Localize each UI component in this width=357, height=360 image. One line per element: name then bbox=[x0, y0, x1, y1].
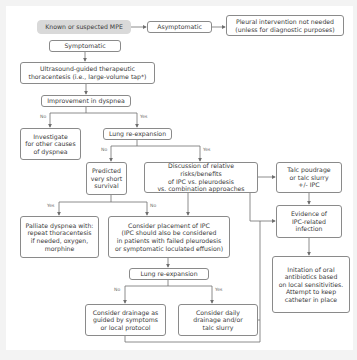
node-label: Discussion of relative risks/benefits of… bbox=[147, 162, 255, 192]
node-label: Ultrasound-guided therapeutic thoracente… bbox=[28, 65, 146, 80]
node-lung-reexpansion-2: Lung re-expansion bbox=[129, 268, 209, 280]
node-label: Asymptomatic bbox=[157, 23, 202, 31]
edge-label-reexp2-yes: Yes bbox=[215, 287, 222, 292]
node-evidence-ipc-infection: Evidence of IPC-related infection bbox=[276, 205, 342, 238]
node-talc-poudrage: Talc poudrage or talc slurry +/- IPC bbox=[276, 162, 342, 193]
edge-label-survival-yes: Yes bbox=[47, 203, 54, 208]
node-label: Known or suspected MPE bbox=[45, 23, 123, 31]
node-ultrasound-thoracentesis: Ultrasound-guided therapeutic thoracente… bbox=[20, 62, 155, 84]
node-symptomatic: Symptomatic bbox=[49, 40, 121, 52]
node-label: Consider drainage as guided by symptoms … bbox=[93, 309, 159, 332]
node-oral-antibiotics: Initation of oral antibiotics based on l… bbox=[272, 256, 350, 313]
node-predicted-short-survival: Predicted very short survival bbox=[86, 162, 127, 195]
node-daily-drainage: Consider daily drainage and/or talc slur… bbox=[178, 304, 258, 336]
node-label: Predicted very short survival bbox=[91, 167, 123, 190]
node-investigate-other-causes: Investigate for other causes of dyspnea bbox=[20, 128, 81, 160]
node-label: Lung re-expansion bbox=[140, 270, 197, 278]
node-label: Consider daily drainage and/or talc slur… bbox=[193, 309, 242, 332]
node-discussion-risks-benefits: Discussion of relative risks/benefits of… bbox=[144, 162, 258, 193]
node-label: Lung re-expansion bbox=[109, 130, 166, 138]
node-label: Symptomatic bbox=[64, 42, 105, 50]
node-improvement-in-dyspnea: Improvement in dyspnea bbox=[41, 95, 131, 107]
edge-label-reexp2-no: No bbox=[114, 287, 120, 292]
node-label: Pleural intervention not needed (unless … bbox=[235, 18, 334, 33]
node-palliate-dyspnea: Palliate dyspnea with: repeat thoracente… bbox=[20, 216, 99, 258]
node-label: Evidence of IPC-related infection bbox=[291, 210, 327, 233]
edge-label-reexp1-yes: Yes bbox=[203, 147, 210, 152]
node-label: Improvement in dyspnea bbox=[47, 97, 124, 105]
node-known-suspected-mpe: Known or suspected MPE bbox=[37, 20, 131, 34]
node-pleural-intervention-not-needed: Pleural intervention not needed (unless … bbox=[226, 15, 344, 36]
node-label: Palliate dyspnea with: repeat thoracente… bbox=[26, 222, 94, 252]
node-label: Talc poudrage or talc slurry +/- IPC bbox=[287, 166, 330, 189]
edge-label-survival-no: No bbox=[150, 203, 156, 208]
node-label: Investigate for other causes of dyspnea bbox=[25, 133, 75, 156]
edge-label-reexp1-no: No bbox=[101, 147, 107, 152]
edge-label-improvement-no: No bbox=[40, 114, 46, 119]
node-label: Initation of oral antibiotics based on l… bbox=[279, 266, 344, 304]
node-asymptomatic: Asymptomatic bbox=[147, 21, 212, 33]
node-lung-reexpansion-1: Lung re-expansion bbox=[103, 128, 172, 140]
edge-label-improvement-yes: Yes bbox=[140, 114, 147, 119]
node-label: Consider placement of IPC (IPC should al… bbox=[115, 222, 223, 252]
node-drainage-guided-by-symptoms: Consider drainage as guided by symptoms … bbox=[85, 304, 166, 336]
node-consider-ipc-placement: Consider placement of IPC (IPC should al… bbox=[108, 216, 230, 258]
